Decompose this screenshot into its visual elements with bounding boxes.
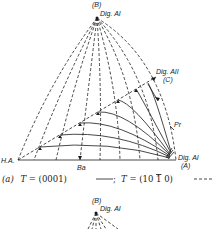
caption-t1-eq: = (0001) <box>29 174 67 184</box>
solid-arc <box>148 83 171 152</box>
caption-sep: ; <box>113 174 116 184</box>
outer-arc <box>97 18 176 160</box>
left-edge <box>18 18 97 160</box>
b-dashed-line <box>88 213 96 229</box>
b-dashed-line <box>96 213 118 229</box>
caption-prefix: (a) <box>2 174 14 184</box>
dashed-arc <box>80 18 97 160</box>
caption-t1-var: T <box>20 174 27 184</box>
apex-point <box>96 17 99 20</box>
b-dashed-line <box>92 213 96 229</box>
ba-marker <box>78 156 82 160</box>
b-dashed-line <box>96 213 106 229</box>
svg-text:T = (10 1: T = (10 1 0) <box>121 174 173 184</box>
stereographic-diagram: (B) Dig. AI H.A. Dig. AI (A) Dig. AII (C… <box>0 0 214 229</box>
apex-point-label: (B) <box>92 1 101 9</box>
solid-arc <box>40 145 170 158</box>
side-point-label: Pr <box>174 121 182 128</box>
figure-a: (B) Dig. AI H.A. Dig. AI (A) Dig. AII (C… <box>1 1 212 184</box>
bottom-point-label: Ba <box>77 164 86 171</box>
b-apex-point-label: (B) <box>92 197 101 205</box>
left-corner-label: H.A. <box>1 157 15 164</box>
caption: (a) T = (0001) ; T = (10 1 0) <box>2 174 212 184</box>
dashed-arc <box>56 18 97 160</box>
upper-right-point-label: (C) <box>163 76 173 84</box>
right-corner-name-label: Dig. AI <box>178 154 199 162</box>
right-corner-point-label: (A) <box>181 162 190 170</box>
caption-t2-var: T <box>121 174 128 184</box>
apex-name-label: Dig. AI <box>100 10 121 18</box>
b-dashed-line <box>96 213 101 229</box>
svg-text:(a) T = (0001: (a) T = (0001) <box>2 174 67 184</box>
solid-arc <box>136 89 171 153</box>
dashed-arc <box>97 18 101 160</box>
b-apex-name-label: Dig. AI <box>100 205 121 213</box>
dashed-arc <box>34 18 97 160</box>
figure-b: (B) Dig. AI <box>88 197 121 229</box>
caption-t2-eq: = (10 <box>129 174 153 184</box>
upper-right-name-label: Dig. AII <box>156 68 179 76</box>
caption-t2-bar: 1 <box>156 174 161 184</box>
caption-t2-end: 0) <box>164 174 173 184</box>
